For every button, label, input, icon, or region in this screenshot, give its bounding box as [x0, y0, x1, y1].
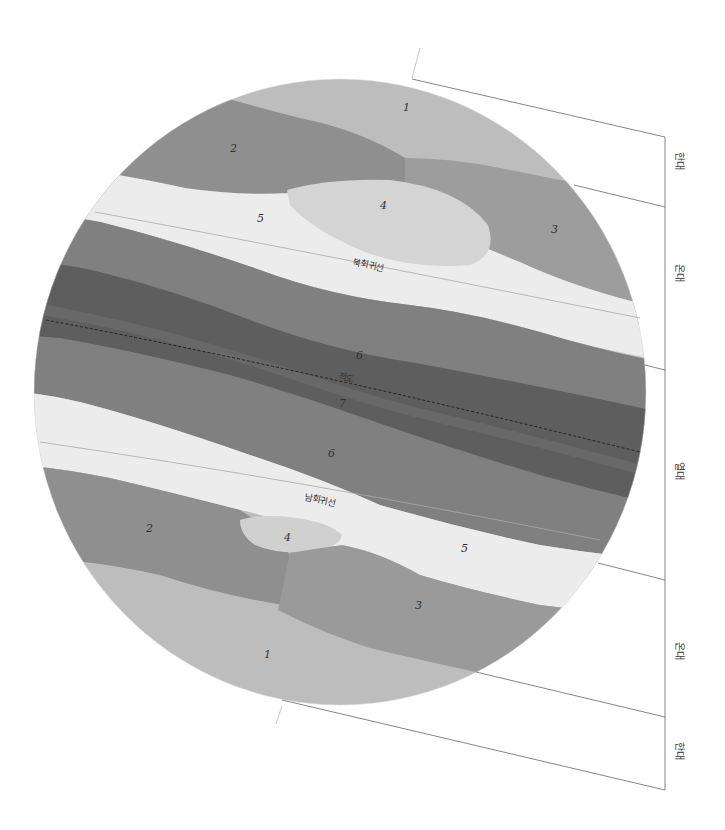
axis-bottom-stub — [276, 706, 282, 724]
climate-zone-diagram: 1 2 3 4 5 6 7 6 5 4 3 2 1 북회귀선 적도 남회귀선 한… — [0, 0, 725, 830]
num-north-6: 6 — [356, 349, 363, 362]
num-north-1: 1 — [403, 101, 410, 114]
num-south-6: 6 — [328, 447, 335, 460]
num-north-3: 3 — [551, 223, 558, 236]
zone-labels: 한대 온대 열대 온대 한대 — [674, 152, 685, 760]
num-south-4: 4 — [283, 531, 291, 544]
num-center-7: 7 — [339, 397, 346, 410]
num-south-5: 5 — [461, 542, 468, 555]
num-south-2: 2 — [145, 522, 153, 535]
zone-label-north-frigid: 한대 — [674, 152, 685, 170]
zone-label-south-frigid: 한대 — [674, 742, 685, 760]
num-north-4: 4 — [379, 199, 387, 212]
zone-label-north-temperate: 온대 — [674, 264, 685, 282]
axis-top-stub — [412, 48, 420, 78]
num-north-2: 2 — [229, 142, 237, 155]
num-south-3: 3 — [415, 599, 422, 612]
zone-label-south-temperate: 온대 — [674, 642, 685, 660]
num-south-1: 1 — [264, 648, 271, 661]
zone-label-torrid: 열대 — [674, 462, 685, 480]
num-north-5: 5 — [257, 212, 264, 225]
